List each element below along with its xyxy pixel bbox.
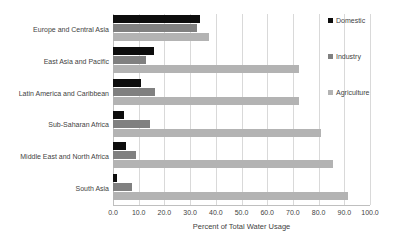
bar-domestic[interactable] bbox=[113, 47, 154, 55]
bar-agriculture[interactable] bbox=[113, 97, 299, 105]
category-label: East Asia and Pacific bbox=[1, 57, 109, 66]
x-axis-tick-labels: 0.010.020.030.040.050.060.070.080.090.01… bbox=[113, 208, 370, 220]
bar-industry[interactable] bbox=[113, 88, 155, 96]
bar-agriculture[interactable] bbox=[113, 160, 333, 168]
legend-label: Agriculture bbox=[336, 88, 369, 97]
x-tick-label: 30.0 bbox=[183, 208, 197, 218]
category-label: South Asia bbox=[1, 184, 109, 193]
bar-group bbox=[113, 173, 370, 205]
bar-industry[interactable] bbox=[113, 183, 132, 191]
legend-swatch-icon bbox=[328, 90, 333, 95]
category-axis-labels: Europe and Central AsiaEast Asia and Pac… bbox=[0, 14, 109, 205]
x-tick-label: 70.0 bbox=[286, 208, 300, 218]
bar-group bbox=[113, 110, 370, 142]
bar-group bbox=[113, 141, 370, 173]
bar-domestic[interactable] bbox=[113, 142, 126, 150]
x-tick-label: 0.0 bbox=[108, 208, 118, 218]
x-tick-label: 10.0 bbox=[132, 208, 146, 218]
legend-swatch-icon bbox=[328, 18, 333, 23]
x-tick-label: 60.0 bbox=[260, 208, 274, 218]
legend-item-agriculture[interactable]: Agriculture bbox=[328, 88, 369, 97]
bar-industry[interactable] bbox=[113, 151, 136, 159]
x-tick-label: 100.0 bbox=[361, 208, 379, 218]
legend-swatch-icon bbox=[328, 54, 333, 59]
bar-agriculture[interactable] bbox=[113, 33, 209, 41]
bar-domestic[interactable] bbox=[113, 111, 124, 119]
bar-industry[interactable] bbox=[113, 24, 197, 32]
category-label: Europe and Central Asia bbox=[1, 25, 109, 34]
bar-agriculture[interactable] bbox=[113, 129, 321, 137]
bar-domestic[interactable] bbox=[113, 174, 117, 182]
bar-domestic[interactable] bbox=[113, 15, 200, 23]
bar-domestic[interactable] bbox=[113, 79, 141, 87]
bar-chart: Europe and Central AsiaEast Asia and Pac… bbox=[0, 0, 396, 249]
x-tick-label: 40.0 bbox=[209, 208, 223, 218]
x-tick-label: 90.0 bbox=[337, 208, 351, 218]
x-axis-line bbox=[113, 205, 370, 206]
category-label: Middle East and North Africa bbox=[1, 152, 109, 161]
x-axis-title: Percent of Total Water Usage bbox=[113, 222, 370, 231]
bar-agriculture[interactable] bbox=[113, 65, 299, 73]
x-tick-label: 20.0 bbox=[158, 208, 172, 218]
legend-label: Domestic bbox=[336, 16, 365, 25]
x-tick-label: 50.0 bbox=[235, 208, 249, 218]
x-tick-label: 80.0 bbox=[312, 208, 326, 218]
bar-industry[interactable] bbox=[113, 120, 150, 128]
chart-legend: DomesticIndustryAgriculture bbox=[328, 14, 394, 104]
legend-item-domestic[interactable]: Domestic bbox=[328, 16, 365, 25]
category-label: Latin America and Caribbean bbox=[1, 89, 109, 98]
legend-label: Industry bbox=[336, 52, 361, 61]
category-label: Sub-Saharan Africa bbox=[1, 120, 109, 129]
bar-agriculture[interactable] bbox=[113, 192, 348, 200]
legend-item-industry[interactable]: Industry bbox=[328, 52, 361, 61]
bar-industry[interactable] bbox=[113, 56, 146, 64]
